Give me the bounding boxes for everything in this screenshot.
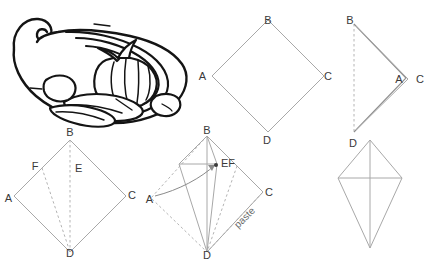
vertex-label-b: B	[346, 14, 353, 26]
crease-fd	[42, 168, 70, 252]
finished-model-illustration	[6, 4, 216, 134]
vertex-label-ef: EF	[221, 157, 235, 169]
vertex-label-c: C	[416, 73, 424, 85]
vertex-label-a: A	[395, 73, 403, 85]
vertex-label-a: A	[5, 192, 13, 204]
step-4-fold-and-paste: B EF A C D paste	[145, 118, 285, 263]
vertex-label-b: B	[203, 124, 210, 136]
vertex-label-e: E	[75, 162, 82, 174]
paste-annotation: paste	[232, 205, 257, 230]
vertex-label-c: C	[265, 186, 273, 198]
vertex-label-d: D	[66, 247, 74, 258]
step-3-crease-lines-ef: B F E A C D	[4, 118, 144, 258]
vertex-label-f: F	[32, 160, 39, 172]
vertex-label-b: B	[66, 126, 73, 138]
vertex-label-c: C	[128, 189, 136, 201]
step-2-folded-in-half: B A C D	[332, 4, 442, 149]
vertex-label-c: C	[324, 70, 332, 82]
right-half-outline	[207, 136, 263, 252]
square-outline	[212, 20, 324, 132]
vertex-label-d: D	[203, 249, 211, 261]
vertex-label-a: A	[146, 193, 154, 205]
vertex-label-b: B	[264, 14, 271, 26]
step-5-finished-kite-shape	[320, 130, 420, 260]
fold-motion-arrow	[155, 165, 215, 196]
origami-instruction-sheet: B A C D B A C D B F E A C D B	[0, 0, 442, 272]
vertex-label-a: A	[199, 70, 207, 82]
point-marker-ef	[214, 163, 218, 167]
